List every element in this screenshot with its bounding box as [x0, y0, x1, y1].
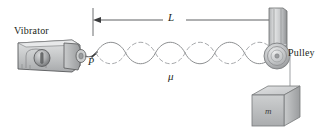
pulley-assembly: [264, 8, 290, 69]
arrow-left-icon: [93, 17, 101, 23]
standing-wave-pattern: [96, 42, 274, 63]
dimension-line-L: [93, 8, 277, 40]
wave-envelope-dashed: [96, 42, 274, 63]
vibrator-device: [18, 40, 86, 72]
label-mass-m: m: [265, 107, 272, 116]
physics-diagram-standing-waves: Vibrator Pulley L P μ m: [0, 0, 326, 135]
vibrator-terminal-hole: [79, 53, 83, 59]
label-point-p: P: [88, 57, 94, 67]
pulley-axle: [275, 54, 279, 58]
label-length-L: L: [168, 12, 174, 23]
label-vibrator: Vibrator: [14, 26, 49, 36]
label-linear-density-mu: μ: [168, 71, 174, 82]
hanging-mass-block: [252, 86, 300, 126]
diagram-canvas: [0, 0, 326, 135]
dial-slot-icon: [41, 53, 44, 64]
label-pulley: Pulley: [288, 48, 315, 58]
